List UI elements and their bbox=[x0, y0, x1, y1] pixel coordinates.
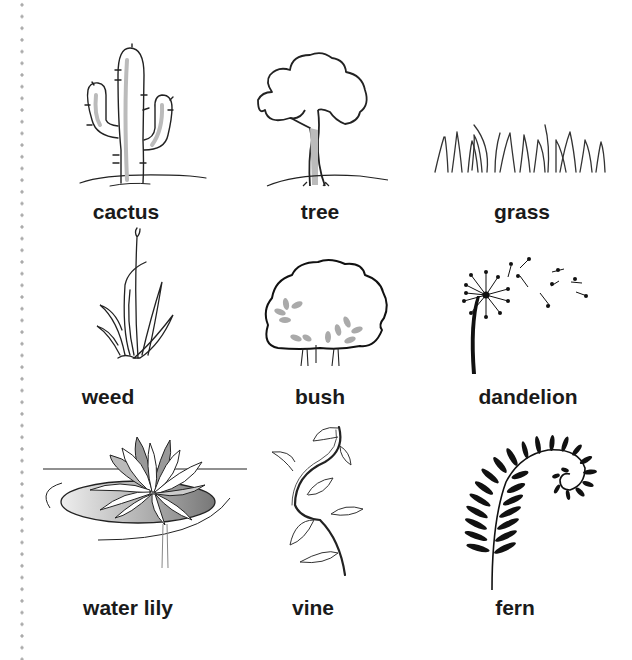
grass-icon bbox=[0, 0, 632, 660]
dotted-margin bbox=[19, 0, 25, 660]
dandelion-icon bbox=[0, 0, 632, 660]
cactus-label: cactus bbox=[93, 200, 160, 224]
weed-label: weed bbox=[82, 385, 135, 409]
tree-label: tree bbox=[301, 200, 340, 224]
weed-icon bbox=[0, 0, 632, 660]
tree-icon bbox=[0, 0, 632, 660]
dandelion-label: dandelion bbox=[478, 385, 577, 409]
bush-icon bbox=[0, 0, 632, 660]
fern-label: fern bbox=[495, 596, 535, 620]
vine-icon bbox=[0, 0, 632, 660]
cactus-icon bbox=[0, 0, 632, 660]
grass-label: grass bbox=[494, 200, 550, 224]
bush-label: bush bbox=[295, 385, 345, 409]
fern-icon bbox=[0, 0, 632, 660]
vine-label: vine bbox=[292, 596, 334, 620]
water-lily-icon bbox=[0, 0, 632, 660]
water-lily-label: water lily bbox=[83, 596, 173, 620]
